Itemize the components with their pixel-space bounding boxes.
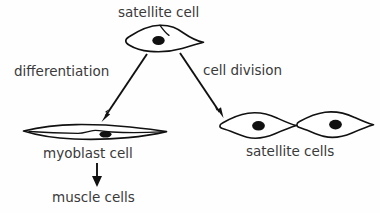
label-satellite-cell: satellite cell: [118, 6, 199, 20]
satellite-cell-daughter-2-shape: [297, 112, 374, 137]
satellite-cell-diagram: satellite cell differentiation cell divi…: [0, 0, 380, 213]
muscle-cells-arrow: [92, 163, 102, 187]
label-satellite-cells: satellite cells: [246, 145, 334, 159]
muscle-cells-arrow-head: [92, 176, 102, 187]
satellite-cell-outline: [126, 25, 204, 52]
satellite-cell-nucleus: [152, 36, 164, 45]
label-differentiation: differentiation: [14, 65, 109, 79]
differentiation-arrow-line: [106, 54, 148, 116]
satellite-cell-shape: [126, 25, 204, 52]
label-cell-division: cell division: [203, 64, 282, 78]
label-myoblast-cell: myoblast cell: [43, 147, 133, 161]
satellite-cell-daughter-2-nucleus: [329, 120, 342, 130]
label-muscle-cells: muscle cells: [52, 191, 135, 205]
satellite-cell-daughter-1-shape: [220, 113, 297, 138]
satellite-cell-daughter-1-nucleus: [252, 121, 265, 131]
diagram-canvas: [0, 0, 380, 213]
myoblast-cell-shape: [24, 125, 167, 140]
myoblast-cell-nucleus: [100, 131, 112, 138]
